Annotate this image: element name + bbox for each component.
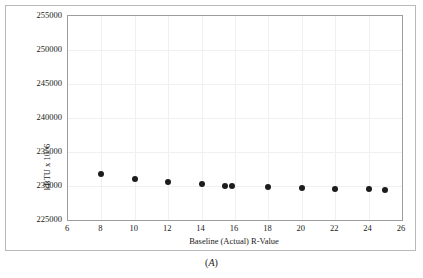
- y-axis-tick-label: 245000: [6, 79, 62, 88]
- x-axis-tick-label: 26: [386, 222, 416, 234]
- y-axis-title: kBTU x 10^6: [42, 112, 52, 222]
- y-axis-tick-label: 230000: [6, 181, 62, 190]
- figure-caption: (A): [0, 256, 423, 270]
- chart-canvas: 2250002300002350002400002450002500002550…: [6, 6, 415, 250]
- data-point: [366, 186, 372, 192]
- data-point: [199, 181, 205, 187]
- x-axis-tick-label: 8: [85, 222, 115, 234]
- data-point: [299, 185, 305, 191]
- gridline-vertical: [235, 16, 236, 220]
- x-axis-tick-label: 16: [219, 222, 249, 234]
- y-axis-title-wrapper: kBTU x 10^6: [18, 66, 32, 176]
- x-axis-tick-label: 24: [353, 222, 383, 234]
- data-point: [229, 183, 235, 189]
- gridline-vertical: [202, 16, 203, 220]
- y-axis-tick-label: 240000: [6, 113, 62, 122]
- data-point: [98, 171, 104, 177]
- data-point: [165, 179, 171, 185]
- y-axis-tick-label: 255000: [6, 11, 62, 20]
- x-axis-title: Baseline (Actual) R-Value: [67, 236, 401, 247]
- data-point: [222, 183, 228, 189]
- gridline-vertical: [101, 16, 102, 220]
- x-axis-tick-label: 22: [319, 222, 349, 234]
- x-axis-tick-label: 6: [52, 222, 82, 234]
- x-axis-tick-label: 20: [286, 222, 316, 234]
- plot-area: [67, 15, 403, 221]
- data-point: [132, 176, 138, 182]
- figure-frame: 2250002300002350002400002450002500002550…: [5, 5, 416, 251]
- gridline-vertical: [135, 16, 136, 220]
- data-point: [332, 186, 338, 192]
- y-axis-tick-label: 235000: [6, 147, 62, 156]
- x-axis-tick-label: 12: [152, 222, 182, 234]
- data-point: [265, 184, 271, 190]
- x-axis-tick-label: 14: [186, 222, 216, 234]
- y-axis-tick-label: 250000: [6, 45, 62, 54]
- data-point: [382, 187, 388, 193]
- x-axis-tick-label: 10: [119, 222, 149, 234]
- y-axis-tick-labels: 2250002300002350002400002450002500002550…: [6, 15, 62, 219]
- gridline-vertical: [168, 16, 169, 220]
- caption-close-paren: ): [215, 257, 218, 268]
- x-axis-tick-label: 18: [252, 222, 282, 234]
- x-axis-tick-labels: 68101214161820222426: [67, 222, 401, 236]
